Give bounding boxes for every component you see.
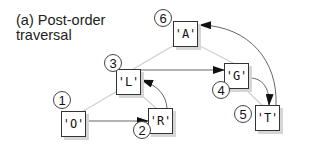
node-t: 'T' bbox=[255, 105, 280, 131]
order-badge-t: 5 bbox=[234, 105, 252, 123]
edge-a-g bbox=[196, 44, 237, 65]
edge-l-o bbox=[80, 90, 119, 113]
node-a: 'A' bbox=[173, 21, 198, 47]
node-r: 'R' bbox=[148, 108, 173, 134]
order-badge-a: 6 bbox=[154, 9, 172, 27]
arrow-g-t bbox=[250, 78, 269, 105]
node-o: 'O' bbox=[61, 111, 86, 137]
order-badge-r: 2 bbox=[133, 121, 151, 139]
order-badge-o: 1 bbox=[53, 91, 71, 109]
order-badge-g: 4 bbox=[212, 81, 230, 99]
node-l: 'L' bbox=[116, 69, 141, 95]
arrow-r-l bbox=[142, 80, 167, 108]
edge-a-l bbox=[130, 44, 176, 71]
order-badge-l: 3 bbox=[104, 54, 122, 72]
